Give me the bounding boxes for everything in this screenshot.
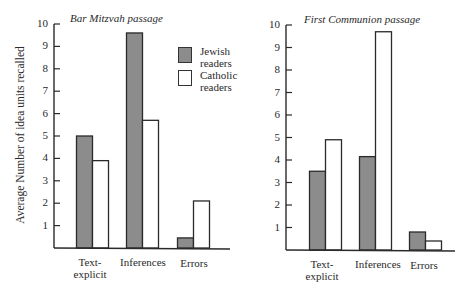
y-tick-label: 3 — [264, 176, 280, 188]
y-tick-label: 10 — [264, 18, 280, 30]
y-tick-label: 2 — [32, 196, 48, 208]
y-tick-label: 3 — [32, 174, 48, 186]
bar — [376, 32, 392, 250]
right-cat-inferences: Inferences — [350, 258, 406, 270]
y-tick-label: 8 — [264, 63, 280, 75]
cat-label-line2: explicit — [68, 268, 112, 280]
legend-line1: Catholic — [200, 69, 237, 81]
bar — [127, 33, 143, 248]
y-tick-label: 6 — [32, 107, 48, 119]
cat-label-line1: Text- — [68, 256, 112, 268]
bar — [310, 171, 326, 250]
bar — [77, 136, 93, 248]
y-tick-label: 1 — [32, 219, 48, 231]
legend-swatch-jewish — [178, 47, 192, 63]
y-tick-label: 9 — [32, 39, 48, 51]
bar — [360, 157, 376, 250]
y-tick-label: 5 — [264, 131, 280, 143]
y-tick-label: 8 — [32, 62, 48, 74]
y-tick-label: 2 — [264, 198, 280, 210]
legend-line2: readers — [200, 57, 232, 69]
y-tick-label: 9 — [264, 41, 280, 53]
y-tick-label: 4 — [32, 151, 48, 163]
bar — [143, 120, 159, 248]
bar — [326, 140, 342, 250]
chart-canvas — [0, 0, 461, 292]
y-tick-label: 7 — [32, 84, 48, 96]
bar — [426, 241, 442, 250]
right-cat-errors: Errors — [402, 259, 446, 271]
legend-line2: readers — [200, 81, 237, 93]
bar — [178, 238, 194, 248]
y-tick-label: 7 — [264, 86, 280, 98]
bar — [410, 232, 426, 250]
y-tick-label: 4 — [264, 153, 280, 165]
y-tick-label: 5 — [32, 129, 48, 141]
bar — [93, 161, 109, 248]
y-tick-label: 1 — [264, 221, 280, 233]
legend-label-catholic: Catholic readers — [200, 69, 237, 93]
legend-label-jewish: Jewish readers — [200, 45, 232, 69]
right-cat-text-explicit: Text- explicit — [300, 258, 344, 282]
cat-label-line2: explicit — [300, 270, 344, 282]
x-axis-line — [286, 250, 455, 251]
cat-label-line1: Text- — [300, 258, 344, 270]
left-cat-text-explicit: Text- explicit — [68, 256, 112, 280]
left-cat-inferences: Inferences — [115, 256, 171, 268]
y-tick-label: 10 — [32, 17, 48, 29]
y-tick-label: 6 — [264, 108, 280, 120]
bar — [194, 201, 210, 248]
legend-line1: Jewish — [200, 45, 232, 57]
left-cat-errors: Errors — [172, 257, 216, 269]
legend-swatch-catholic — [178, 70, 192, 86]
